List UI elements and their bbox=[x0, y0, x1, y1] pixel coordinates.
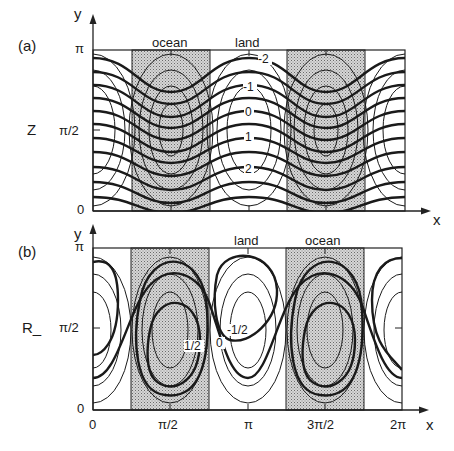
y-axis-label-a: y bbox=[74, 6, 82, 21]
panel-b bbox=[55, 224, 440, 414]
x-tick-0: 0 bbox=[89, 418, 96, 431]
x-axis-label-b: x bbox=[426, 417, 434, 432]
y-tick-half-pi-b: π/2 bbox=[59, 321, 79, 334]
contour-label: -2 bbox=[258, 53, 269, 65]
contour-label: 1 bbox=[245, 131, 252, 143]
figure-canvas bbox=[0, 0, 454, 451]
x-tick-pi: π bbox=[244, 418, 253, 431]
variable-label-a: Z bbox=[27, 122, 36, 137]
x-tick-two-pi: 2π bbox=[390, 418, 406, 431]
y-arrow-icon bbox=[90, 14, 97, 24]
x-tick-half-pi: π/2 bbox=[158, 418, 178, 431]
variable-label-b: R_ bbox=[22, 320, 41, 335]
contour-label: 0 bbox=[216, 337, 223, 349]
x-arrow-icon bbox=[421, 208, 431, 215]
contour-label: 1/2 bbox=[184, 340, 201, 352]
contour-label: -1 bbox=[243, 81, 254, 93]
contour-label: 0 bbox=[245, 106, 252, 118]
region-label-land-a: land bbox=[235, 36, 260, 49]
y-tick-half-pi-a: π/2 bbox=[59, 124, 79, 137]
region-label-land-b: land bbox=[234, 234, 259, 247]
panel-b-tag: (b) bbox=[18, 244, 36, 259]
y-tick-zero-a: 0 bbox=[77, 203, 84, 216]
contour-label: 2 bbox=[245, 163, 252, 175]
region-label-ocean-a: ocean bbox=[152, 36, 187, 49]
y-tick-zero-b: 0 bbox=[77, 402, 84, 415]
y-arrow-icon bbox=[90, 224, 97, 234]
x-arrow-icon bbox=[419, 407, 429, 414]
contour-label: -1/2 bbox=[227, 324, 248, 336]
panel-a-tag: (a) bbox=[18, 38, 36, 53]
region-label-ocean-b: ocean bbox=[305, 234, 340, 247]
y-tick-pi-a: π bbox=[75, 42, 84, 55]
y-tick-pi-b: π bbox=[75, 240, 84, 253]
x-tick-three-half-pi: 3π/2 bbox=[307, 418, 334, 431]
x-axis-label-a: x bbox=[433, 212, 441, 227]
